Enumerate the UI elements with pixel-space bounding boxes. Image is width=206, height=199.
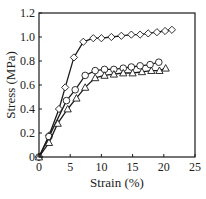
diamond-marker xyxy=(98,35,105,42)
y-tick-label: 0.8 xyxy=(20,54,35,68)
y-tick-label: 0.6 xyxy=(20,78,35,92)
x-tick-label: 15 xyxy=(127,160,139,174)
y-tick-label: 0.2 xyxy=(20,126,35,140)
circle-marker xyxy=(92,67,99,74)
series-line xyxy=(39,30,172,157)
x-tick-label: 0 xyxy=(36,160,42,174)
diamond-marker xyxy=(128,31,135,38)
triangle-marker xyxy=(162,65,169,71)
diamond-marker xyxy=(168,26,175,33)
circle-marker xyxy=(156,59,163,66)
series-layer xyxy=(35,26,175,160)
y-tick-label: 1.0 xyxy=(20,30,35,44)
series-triangle xyxy=(35,65,169,160)
y-tick-label: 0 xyxy=(29,150,35,164)
circle-marker xyxy=(72,87,79,94)
diamond-marker xyxy=(70,54,77,61)
x-tick-label: 20 xyxy=(158,160,170,174)
x-tick-label: 5 xyxy=(67,160,73,174)
circle-marker xyxy=(128,64,135,71)
diamond-marker xyxy=(108,33,115,40)
stress-strain-chart: 051015202500.20.40.60.81.01.2 Strain (%)… xyxy=(0,0,206,199)
plot-frame xyxy=(39,13,195,157)
circle-marker xyxy=(63,97,70,104)
diamond-marker xyxy=(153,29,160,36)
x-axis-title: Strain (%) xyxy=(90,175,144,190)
circle-marker xyxy=(147,61,154,68)
x-tick-label: 25 xyxy=(189,160,201,174)
diamond-marker xyxy=(136,31,143,38)
series-diamond xyxy=(35,26,175,160)
x-tick-label: 10 xyxy=(95,160,107,174)
diamond-marker xyxy=(90,35,97,42)
y-tick-label: 0.4 xyxy=(20,102,35,116)
y-axis-title: Stress (MPa) xyxy=(3,51,18,119)
diamond-marker xyxy=(118,32,125,39)
diamond-marker xyxy=(145,30,152,37)
diamond-marker xyxy=(80,38,87,45)
y-tick-label: 1.2 xyxy=(20,6,35,20)
circle-marker xyxy=(82,72,89,79)
diamond-marker xyxy=(62,84,69,91)
diamond-marker xyxy=(161,27,168,34)
